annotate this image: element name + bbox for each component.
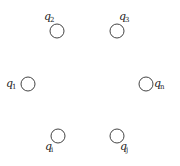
node-circle [50,24,64,38]
node-qi: qi [45,129,65,154]
node-q3: q3 [110,10,129,38]
node-label-subscript: 3 [125,16,129,24]
node-label-subscript: n [160,83,165,91]
node-label-subscript: 1 [12,83,16,91]
node-label-subscript: j [125,146,128,154]
node-q1: q1 [6,77,35,91]
node-q2: q2 [44,10,64,38]
node-circle [51,129,65,143]
node-label-subscript: i [51,146,54,154]
node-qn: qn [139,77,165,91]
node-circle [21,77,35,91]
node-circle [139,77,153,91]
diagram-canvas: q2q3q1qnqiqj [0,0,180,166]
node-label-subscript: 2 [50,16,54,24]
node-qj: qj [110,129,128,154]
node-circle [110,24,124,38]
